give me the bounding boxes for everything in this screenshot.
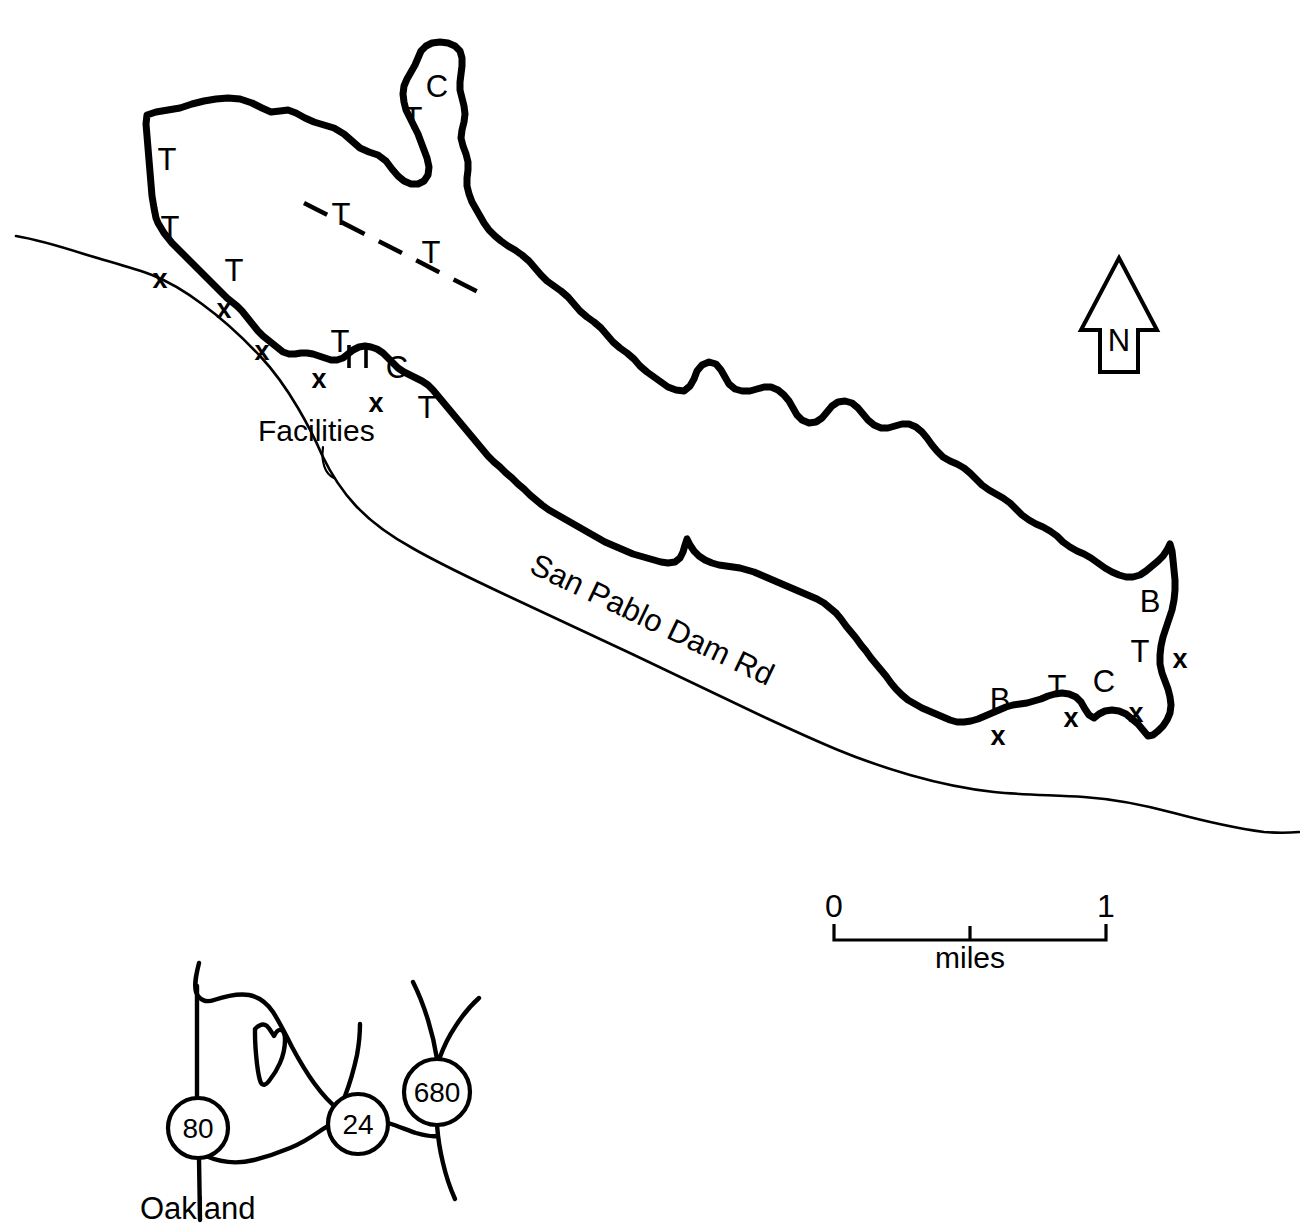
site-x-marker-x7: x xyxy=(1128,698,1143,728)
inset-city-label-oakland: Oakland xyxy=(140,1191,255,1226)
site-x-marker-x9: x xyxy=(990,721,1005,751)
site-x-marker-x8: x xyxy=(1063,703,1078,733)
shore-marker-m13: C xyxy=(1093,664,1115,699)
shore-marker-m6: T xyxy=(404,101,423,136)
shore-marker-m14: T xyxy=(1048,669,1067,704)
map-canvas: N 0 1 miles 80 24 680 Oakland San Pablo … xyxy=(0,0,1300,1231)
shore-marker-m10: T xyxy=(422,235,441,270)
scale-bar-rule xyxy=(834,924,1106,940)
scale-unit-label: miles xyxy=(935,941,1005,974)
shore-marker-m7: C xyxy=(426,69,448,104)
shore-marker-m9: T xyxy=(332,197,351,232)
shore-marker-m5: T xyxy=(418,390,437,425)
scale-min-label: 0 xyxy=(825,888,843,924)
site-x-marker-x3: x xyxy=(254,336,269,366)
shore-marker-m4: T xyxy=(331,324,350,359)
map-figure: N 0 1 miles 80 24 680 Oakland San Pablo … xyxy=(0,0,1300,1231)
site-x-marker-x1: x xyxy=(152,264,167,294)
site-x-marker-x6: x xyxy=(1172,644,1187,674)
site-x-marker-x4: x xyxy=(311,364,326,394)
scale-max-label: 1 xyxy=(1097,888,1115,924)
site-x-marker-x5: x xyxy=(368,388,383,418)
facilities-label: Facilities xyxy=(258,414,375,447)
shore-marker-m8: C xyxy=(386,350,408,385)
site-x-marker-x2: x xyxy=(216,294,231,324)
shore-marker-m15: B xyxy=(990,682,1011,717)
inset-shield-80-label: 80 xyxy=(182,1113,213,1144)
north-arrow-label: N xyxy=(1108,323,1130,358)
inset-route-680-south-line xyxy=(437,1125,455,1199)
inset-route-24-line xyxy=(206,1123,437,1162)
inset-shield-680-label: 680 xyxy=(414,1077,461,1108)
inset-route-680-line xyxy=(413,982,479,1059)
inset-bay-island xyxy=(255,1025,285,1085)
shore-marker-m1: T xyxy=(158,142,177,177)
shore-marker-m12: T xyxy=(1131,634,1150,669)
inset-shield-24-label: 24 xyxy=(342,1109,373,1140)
shore-marker-m3: T xyxy=(225,253,244,288)
dashed-boundary-line xyxy=(304,203,480,293)
shore-marker-m11: B xyxy=(1140,584,1161,619)
shore-marker-m2: T xyxy=(161,210,180,245)
